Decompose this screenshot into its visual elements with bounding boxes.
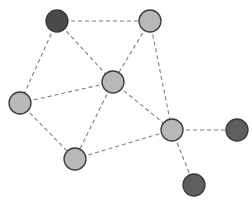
node-layer bbox=[9, 10, 248, 196]
node-n2 bbox=[139, 10, 161, 32]
node-n3 bbox=[102, 71, 124, 93]
node-n7 bbox=[226, 119, 248, 141]
node-n6 bbox=[161, 119, 183, 141]
node-n4 bbox=[9, 92, 31, 114]
node-n5 bbox=[64, 148, 86, 170]
edge-n2-n6 bbox=[150, 21, 172, 130]
edge-n4-n5 bbox=[20, 103, 75, 159]
node-n8 bbox=[183, 174, 205, 196]
edge-n3-n4 bbox=[20, 82, 113, 103]
node-n1 bbox=[46, 10, 68, 32]
edge-layer bbox=[20, 21, 237, 185]
network-diagram bbox=[0, 0, 252, 205]
edge-n1-n4 bbox=[20, 21, 57, 103]
edge-n5-n6 bbox=[75, 130, 172, 159]
edge-n1-n3 bbox=[57, 21, 113, 82]
edge-n3-n5 bbox=[75, 82, 113, 159]
